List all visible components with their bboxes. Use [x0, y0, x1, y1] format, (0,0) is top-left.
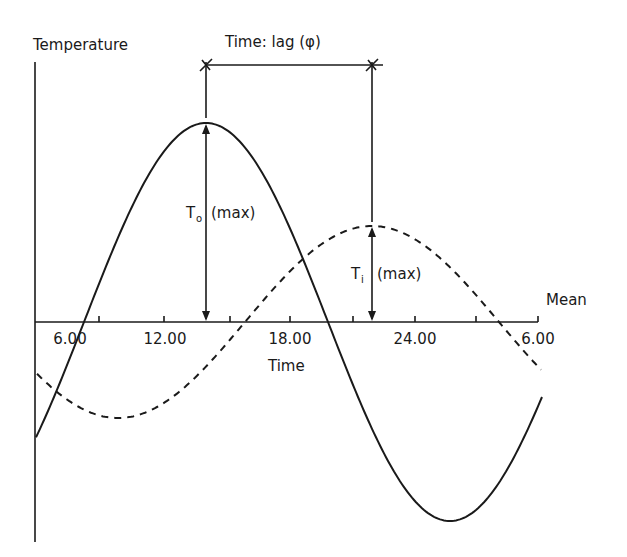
x-tick-label: 24.00 [394, 330, 437, 348]
x-axis-label: Time [267, 357, 305, 375]
x-tick-label: 6.00 [521, 330, 554, 348]
temperature-lag-diagram: Temperature Time: lag (φ) Mean Time T o … [0, 0, 627, 557]
outdoor-max-label: T o (max) [185, 204, 255, 224]
arrowhead-down-icon [368, 311, 376, 321]
indoor-max-label: T i (max) [350, 265, 421, 285]
y-axis-label: Temperature [32, 36, 128, 54]
svg-text:T: T [185, 204, 196, 222]
x-tick-labels: 6.0012.0018.0024.006.00 [53, 330, 554, 348]
svg-text:o: o [196, 213, 202, 224]
arrowhead-down-icon [202, 311, 210, 321]
svg-text:(max): (max) [377, 265, 421, 283]
arrowhead-up-icon [202, 124, 210, 134]
x-tick-label: 18.00 [269, 330, 312, 348]
arrowhead-up-icon [368, 227, 376, 237]
axis-ticks [99, 316, 538, 322]
x-tick-label: 6.00 [53, 330, 86, 348]
lag-label: Time: lag (φ) [224, 33, 321, 51]
svg-text:(max): (max) [211, 204, 255, 222]
mean-label: Mean [546, 291, 587, 309]
x-tick-label: 12.00 [144, 330, 187, 348]
svg-text:T: T [350, 265, 361, 283]
svg-text:i: i [361, 274, 364, 285]
